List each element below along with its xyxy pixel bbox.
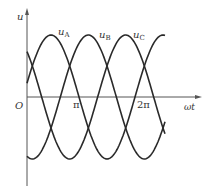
x-axis-label: ωt — [184, 102, 195, 112]
origin-label: O — [15, 101, 23, 111]
uA-sub: A — [64, 31, 69, 39]
y-axis-label: u — [17, 12, 23, 22]
three-phase-voltage-chart — [0, 0, 212, 192]
series-label-uB: uB — [99, 30, 111, 43]
y-axis-arrow-icon — [25, 8, 29, 15]
series-label-uC: uC — [133, 30, 145, 43]
tick-2pi: 2π — [137, 100, 150, 110]
tick-pi: π — [73, 100, 80, 110]
x-axis-arrow-icon — [195, 95, 202, 99]
uB-sub: B — [105, 34, 110, 42]
uC-sub: C — [139, 34, 144, 42]
series-label-uA: uA — [58, 27, 70, 40]
